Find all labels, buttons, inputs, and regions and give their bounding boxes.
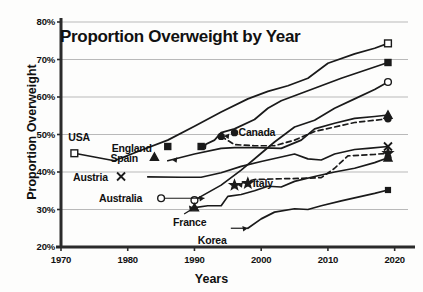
x-axis-tick-2020: 2020 — [375, 254, 415, 265]
x-axis-tick-2010: 2010 — [308, 254, 348, 265]
series-label-spain: Spain — [110, 152, 138, 164]
series-startpoint-marker-usa — [71, 150, 78, 157]
leader-arrow-spain — [172, 157, 178, 162]
x-axis-tick-1970: 1970 — [41, 254, 81, 265]
series-anchor-marker-canada — [232, 130, 238, 136]
series-anchor-marker-austria — [117, 173, 125, 181]
series-anchor-marker-australia — [158, 195, 165, 202]
series-endpoint-marker-korea — [386, 188, 391, 193]
series-label-austria: Austria — [73, 171, 108, 183]
series-endpoint-marker-australia — [385, 79, 392, 86]
series-label-france: France — [173, 216, 206, 228]
series-label-italy: Italy — [253, 177, 273, 189]
chart-container: 20%30%40%50%60%70%80% 197019801990200020… — [0, 0, 423, 292]
series-label-canada: Canada — [239, 126, 276, 138]
chart-title: Proportion Overweight by Year — [60, 27, 300, 47]
series-label-australia: Australia — [99, 192, 142, 204]
x-axis-tick-1990: 1990 — [174, 254, 214, 265]
leader-arrow-korea — [242, 226, 248, 231]
y-axis-tick-20: 20% — [15, 241, 55, 252]
series-endpoint-marker-usa — [385, 40, 392, 47]
series-anchor-marker-spain — [150, 153, 158, 160]
x-axis-title: Years — [0, 272, 423, 286]
x-axis-tick-2000: 2000 — [241, 254, 281, 265]
y-axis-title: Proportion Overweight — [25, 52, 39, 212]
series-line-austria — [148, 147, 388, 178]
x-axis-tick-1980: 1980 — [108, 254, 148, 265]
series-label-usa: USA — [68, 131, 90, 143]
series-label-korea: Korea — [198, 234, 227, 246]
series-anchor-marker-england — [165, 144, 171, 150]
series-endpoint-marker-canada — [385, 116, 391, 122]
series-endpoint-marker-england — [385, 60, 391, 66]
y-axis-tick-80: 80% — [15, 16, 55, 27]
series-startpoint-marker-canada — [218, 133, 224, 139]
